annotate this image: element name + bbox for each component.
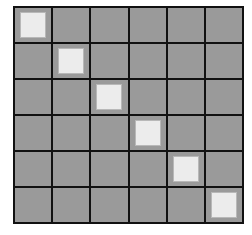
- grid-cell: [91, 152, 127, 186]
- grid-cell: [15, 152, 51, 186]
- grid-cell: [53, 116, 89, 150]
- grid-cell: [206, 152, 242, 186]
- grid-cell: [15, 116, 51, 150]
- cell-marker: [21, 13, 45, 37]
- grid-cell: [15, 188, 51, 222]
- cell-marker: [174, 157, 198, 181]
- grid-cell: [53, 44, 89, 78]
- grid-cell: [130, 188, 166, 222]
- grid-cell: [53, 152, 89, 186]
- grid-cell: [168, 152, 204, 186]
- grid-cell: [168, 116, 204, 150]
- grid-cell: [15, 44, 51, 78]
- grid-board: [13, 6, 244, 224]
- grid-cell: [130, 80, 166, 114]
- grid-cell: [168, 188, 204, 222]
- grid-cell: [130, 44, 166, 78]
- grid-cell: [168, 80, 204, 114]
- grid-cell: [15, 8, 51, 42]
- grid-cell: [91, 44, 127, 78]
- grid-cell: [206, 80, 242, 114]
- grid-cell: [15, 80, 51, 114]
- grid-cell: [130, 8, 166, 42]
- grid-cell: [206, 44, 242, 78]
- grid-cell: [130, 116, 166, 150]
- grid-cell: [168, 8, 204, 42]
- grid-cell: [91, 8, 127, 42]
- grid-cell: [91, 188, 127, 222]
- grid-cell: [91, 80, 127, 114]
- grid-cell: [130, 152, 166, 186]
- grid-cell: [206, 8, 242, 42]
- grid-cell: [168, 44, 204, 78]
- cell-marker: [136, 121, 160, 145]
- grid-cell: [206, 188, 242, 222]
- cell-marker: [212, 193, 236, 217]
- grid-cell: [206, 116, 242, 150]
- grid-cell: [53, 188, 89, 222]
- grid-cell: [53, 8, 89, 42]
- cell-marker: [59, 49, 83, 73]
- cell-marker: [97, 85, 121, 109]
- grid-cell: [53, 80, 89, 114]
- grid-cell: [91, 116, 127, 150]
